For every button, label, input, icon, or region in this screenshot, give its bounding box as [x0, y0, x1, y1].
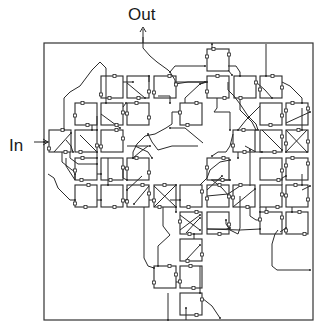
port-icon	[228, 53, 231, 56]
port-icon	[242, 129, 245, 132]
port-icon	[291, 157, 294, 160]
wire	[80, 135, 97, 152]
logic-block	[260, 103, 284, 127]
logic-block	[101, 158, 125, 182]
wire	[282, 176, 286, 185]
logic-block	[207, 212, 231, 236]
wire	[233, 189, 255, 207]
logic-block	[74, 157, 98, 182]
wire	[228, 66, 240, 76]
port-icon	[281, 86, 284, 89]
logic-block	[180, 185, 204, 209]
port-icon	[100, 145, 103, 148]
logic-block	[74, 184, 98, 209]
port-icon	[307, 107, 310, 110]
port-icon	[113, 75, 116, 78]
port-icon	[135, 102, 138, 105]
port-icon	[206, 90, 209, 93]
port-icon	[148, 90, 151, 93]
port-icon	[255, 81, 258, 84]
port-icon	[195, 102, 198, 105]
wire-end-icon	[237, 157, 239, 159]
wire	[148, 134, 198, 150]
wire-end-icon	[199, 83, 201, 85]
port-icon	[307, 140, 310, 143]
port-icon	[281, 169, 284, 172]
logic-block	[100, 75, 124, 100]
port-icon	[61, 129, 64, 132]
wire	[228, 82, 258, 130]
wire-end-icon	[175, 211, 177, 213]
diagram-frame	[44, 43, 313, 320]
wire-end-icon	[199, 229, 201, 231]
wire	[302, 186, 310, 190]
logic-block	[285, 157, 310, 181]
wire	[200, 160, 230, 185]
wire	[262, 130, 282, 150]
wire-end-icon	[132, 81, 134, 83]
port-icon	[100, 93, 103, 96]
port-icon	[122, 166, 125, 169]
port-icon	[259, 218, 262, 221]
port-icon	[175, 273, 178, 276]
port-icon	[148, 171, 151, 174]
port-icon	[186, 260, 189, 263]
wire	[212, 134, 233, 156]
wire-end-icon	[211, 155, 213, 157]
logic-block	[180, 293, 204, 317]
logic-block	[234, 76, 258, 100]
wire	[62, 152, 75, 171]
logic-block	[285, 211, 309, 236]
port-icon	[122, 199, 125, 202]
logic-block	[127, 76, 151, 100]
io-arrows	[34, 27, 146, 145]
port-icon	[239, 184, 242, 187]
port-icon	[281, 135, 284, 138]
port-icon	[212, 48, 215, 51]
wire-end-icon	[167, 319, 169, 321]
port-icon	[285, 142, 288, 145]
wire-end-icon	[169, 127, 171, 129]
wire-end-icon	[249, 149, 251, 151]
logic-block	[101, 185, 125, 209]
port-icon	[307, 162, 310, 165]
port-icon	[201, 190, 204, 193]
wire-end-icon	[257, 129, 259, 131]
port-icon	[153, 199, 156, 202]
port-icon	[294, 184, 297, 187]
wire-end-icon	[119, 127, 121, 129]
port-icon	[122, 111, 125, 114]
logic-block	[179, 102, 203, 127]
wire	[185, 82, 205, 103]
port-icon	[221, 179, 224, 182]
port-icon	[273, 151, 276, 154]
port-icon	[297, 129, 300, 132]
wire-end-icon	[204, 65, 206, 67]
port-icon	[153, 91, 156, 94]
port-icon	[201, 253, 204, 256]
port-icon	[141, 184, 144, 187]
port-icon	[281, 114, 284, 117]
port-icon	[298, 211, 301, 214]
logic-block	[126, 184, 151, 208]
logic-block	[126, 102, 151, 126]
port-icon	[276, 206, 279, 209]
port-icon	[216, 75, 219, 78]
port-icon	[195, 211, 198, 214]
port-icon	[74, 169, 77, 172]
port-icon	[168, 265, 171, 268]
wire-end-icon	[309, 185, 311, 187]
port-icon	[79, 151, 82, 154]
wire	[170, 128, 203, 143]
port-icon	[259, 88, 262, 91]
port-icon	[126, 167, 129, 170]
wire-end-icon	[211, 43, 213, 45]
port-icon	[218, 184, 221, 187]
wire-end-icon	[231, 74, 233, 76]
port-icon	[187, 206, 190, 209]
port-icon	[188, 233, 191, 236]
port-icon	[48, 147, 51, 150]
logic-block	[259, 211, 284, 235]
wire	[143, 37, 170, 72]
port-icon	[239, 97, 242, 100]
